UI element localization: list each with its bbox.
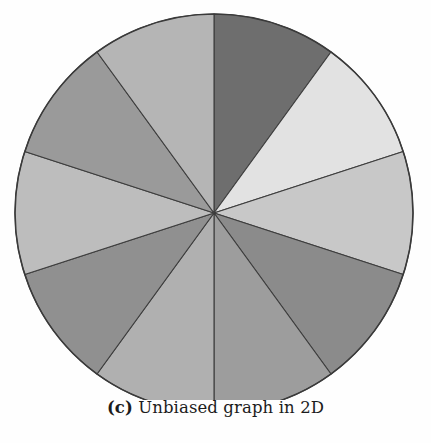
caption-label: (c) — [107, 398, 133, 417]
figure-caption: (c) Unbiased graph in 2D — [0, 398, 431, 417]
caption-text: Unbiased graph in 2D — [133, 398, 324, 417]
pie-chart-svg — [0, 0, 431, 400]
pie-chart — [0, 0, 431, 400]
figure-panel: (c) Unbiased graph in 2D — [0, 0, 431, 443]
